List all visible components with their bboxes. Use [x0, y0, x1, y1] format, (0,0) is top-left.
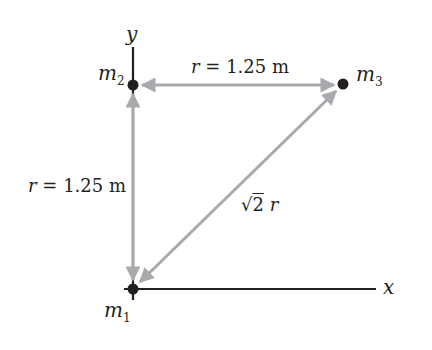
mass-symbol: m — [98, 61, 117, 85]
mass-m2-label: m2 — [98, 63, 125, 83]
mass-subscript: 2 — [117, 74, 125, 88]
y-axis-label: y — [126, 24, 137, 44]
distance-var: r — [191, 56, 200, 77]
distance-var: r — [28, 175, 37, 196]
mass-symbol: m — [104, 298, 123, 322]
mass-m1-dot — [128, 284, 139, 295]
distance-m1-m2-label: r = 1.25 m — [28, 177, 126, 195]
arrow-m1-m3 — [140, 91, 336, 282]
distance-value: = 1.25 m — [200, 56, 289, 77]
diagram-canvas: y x m2 m3 m1 r = 1.25 m r = 1.25 m √2 r — [0, 0, 432, 350]
sqrt-symbol: √ — [241, 194, 252, 215]
mass-m1-label: m1 — [104, 300, 131, 320]
mass-m2-dot — [128, 80, 139, 91]
mass-m3-dot — [338, 79, 349, 90]
mass-m3-label: m3 — [356, 64, 383, 84]
mass-subscript: 3 — [375, 75, 383, 89]
x-axis-label: x — [383, 277, 394, 297]
mass-symbol: m — [356, 62, 375, 86]
distance-m2-m3-label: r = 1.25 m — [191, 58, 289, 76]
distance-value: = 1.25 m — [37, 175, 126, 196]
distance-m1-m3-label: √2 r — [241, 196, 278, 214]
mass-subscript: 1 — [123, 311, 131, 325]
sqrt-radicand: 2 — [252, 194, 263, 215]
distance-var: r — [270, 194, 279, 215]
